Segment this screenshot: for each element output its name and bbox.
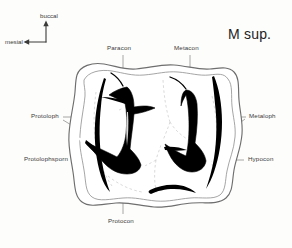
compass-arrowheads-icon bbox=[24, 21, 49, 45]
label-metacon: Metacon bbox=[174, 45, 199, 51]
label-protolophsporn: Protolophsporn bbox=[24, 156, 68, 162]
orientation-compass-icon bbox=[26, 23, 46, 42]
label-paracon: Paracon bbox=[107, 45, 131, 51]
tooth-diagram-figure: buccal mesial M sup. Paracon Metacon Pro… bbox=[0, 0, 292, 248]
label-metaloph: Metaloph bbox=[249, 113, 276, 119]
orientation-label-buccal: buccal bbox=[40, 12, 58, 19]
orientation-label-mesial: mesial bbox=[5, 38, 23, 45]
label-protoloph: Protoloph bbox=[31, 113, 59, 119]
label-protocon: Protocon bbox=[108, 218, 134, 224]
label-hypocon: Hypocon bbox=[248, 156, 273, 162]
figure-title: M sup. bbox=[228, 26, 271, 42]
